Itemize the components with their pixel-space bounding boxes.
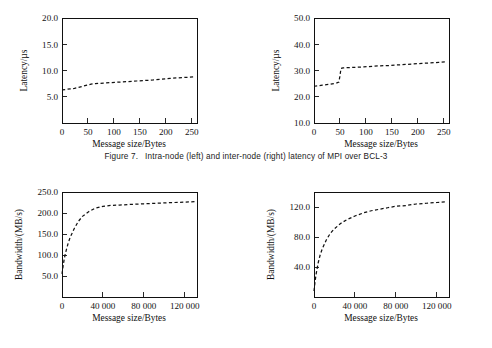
x-axis-ticks bbox=[314, 118, 444, 123]
y-tick-label: 50.0 bbox=[42, 271, 58, 281]
x-tick-label: 80 000 bbox=[383, 301, 408, 311]
plot-frame bbox=[314, 18, 449, 123]
inter-node-latency-chart: 50.0 40.0 30.0 20.0 10.0 0 50 100 150 20… bbox=[252, 4, 482, 152]
y-tick-label: 20.0 bbox=[294, 92, 310, 102]
x-tick-label: 50 bbox=[335, 127, 345, 137]
intra-node-bandwidth-chart: 250.0 200.0 150.0 100.0 50.0 0 40 000 80… bbox=[0, 178, 230, 338]
x-tick-label: 0 bbox=[60, 127, 65, 137]
x-tick-label: 80 000 bbox=[131, 301, 156, 311]
data-curve bbox=[62, 202, 195, 274]
x-tick-label: 0 bbox=[60, 301, 65, 311]
x-axis-ticks bbox=[62, 118, 192, 123]
chart-panel-inter-node-bandwidth: 120.0 80.0 40.0 0 40 000 80 000 120 000 … bbox=[252, 178, 482, 338]
data-curve bbox=[314, 62, 447, 86]
x-tick-label: 150 bbox=[385, 127, 399, 137]
x-tick-label: 120 000 bbox=[170, 301, 200, 311]
x-axis-ticks bbox=[314, 292, 437, 297]
y-axis-tick-labels: 20.0 15.0 10.0 5.0 bbox=[42, 13, 58, 102]
x-axis-tick-labels: 0 50 100 150 200 250 bbox=[60, 127, 199, 137]
y-tick-label: 80.0 bbox=[294, 232, 310, 242]
x-axis-title: Message size/Bytes bbox=[92, 139, 166, 149]
x-tick-label: 0 bbox=[312, 301, 317, 311]
x-axis-title: Message size/Bytes bbox=[344, 313, 418, 323]
figure-sheet: 20.0 15.0 10.0 5.0 0 50 100 150 200 250 … bbox=[0, 0, 492, 348]
y-tick-label: 5.0 bbox=[47, 92, 59, 102]
x-axis-title: Message size/Bytes bbox=[92, 313, 166, 323]
y-axis-ticks bbox=[62, 18, 67, 97]
y-axis-tick-labels: 250.0 200.0 150.0 100.0 50.0 bbox=[38, 187, 59, 281]
x-tick-label: 250 bbox=[185, 127, 199, 137]
y-tick-label: 10.0 bbox=[42, 66, 58, 76]
y-tick-label: 15.0 bbox=[42, 40, 58, 50]
y-tick-label: 250.0 bbox=[38, 187, 59, 197]
y-tick-label: 150.0 bbox=[38, 229, 59, 239]
chart-panel-intra-node-latency: 20.0 15.0 10.0 5.0 0 50 100 150 200 250 … bbox=[0, 4, 230, 152]
y-tick-label: 10.0 bbox=[294, 118, 310, 128]
y-tick-label: 120.0 bbox=[290, 202, 311, 212]
x-tick-label: 40 000 bbox=[342, 301, 367, 311]
x-tick-label: 50 bbox=[83, 127, 93, 137]
x-axis-tick-labels: 0 40 000 80 000 120 000 bbox=[60, 301, 200, 311]
data-curve bbox=[314, 202, 447, 291]
plot-frame bbox=[62, 18, 197, 123]
y-axis-title: Latency/µs bbox=[271, 49, 281, 91]
x-tick-label: 200 bbox=[159, 127, 173, 137]
chart-panel-intra-node-bandwidth: 250.0 200.0 150.0 100.0 50.0 0 40 000 80… bbox=[0, 178, 230, 338]
x-tick-label: 200 bbox=[411, 127, 425, 137]
x-tick-label: 100 bbox=[359, 127, 373, 137]
y-tick-label: 100.0 bbox=[38, 250, 59, 260]
y-tick-label: 20.0 bbox=[42, 13, 58, 23]
y-axis-tick-labels: 120.0 80.0 40.0 bbox=[290, 202, 311, 272]
y-axis-ticks bbox=[314, 18, 319, 123]
x-axis-tick-labels: 0 50 100 150 200 250 bbox=[312, 127, 451, 137]
figure-caption: Figure 7.Intra-node (left) and inter-nod… bbox=[0, 152, 492, 161]
figure-caption-text: Intra-node (left) and inter-node (right)… bbox=[145, 152, 387, 161]
x-tick-label: 250 bbox=[437, 127, 451, 137]
x-tick-label: 100 bbox=[107, 127, 121, 137]
x-axis-ticks bbox=[62, 292, 185, 297]
x-axis-tick-labels: 0 40 000 80 000 120 000 bbox=[312, 301, 452, 311]
y-axis-tick-labels: 50.0 40.0 30.0 20.0 10.0 bbox=[294, 13, 310, 128]
intra-node-latency-chart: 20.0 15.0 10.0 5.0 0 50 100 150 200 250 … bbox=[0, 4, 230, 152]
plot-frame bbox=[62, 192, 197, 297]
plot-frame bbox=[314, 192, 449, 297]
y-axis-title: Bandwidth/(MB/s) bbox=[14, 209, 25, 280]
y-tick-label: 50.0 bbox=[294, 13, 310, 23]
y-axis-ticks bbox=[62, 192, 67, 276]
x-axis-title: Message size/Bytes bbox=[344, 139, 418, 149]
figure-caption-label: Figure 7. bbox=[104, 152, 138, 161]
y-tick-label: 40.0 bbox=[294, 262, 310, 272]
inter-node-bandwidth-chart: 120.0 80.0 40.0 0 40 000 80 000 120 000 … bbox=[252, 178, 482, 338]
x-tick-label: 120 000 bbox=[422, 301, 452, 311]
y-axis-title: Bandwidth/(MB/s) bbox=[266, 209, 277, 280]
y-tick-label: 30.0 bbox=[294, 66, 310, 76]
y-tick-label: 40.0 bbox=[294, 40, 310, 50]
x-tick-label: 150 bbox=[133, 127, 147, 137]
chart-panel-inter-node-latency: 50.0 40.0 30.0 20.0 10.0 0 50 100 150 20… bbox=[252, 4, 482, 152]
x-tick-label: 0 bbox=[312, 127, 317, 137]
y-axis-ticks bbox=[314, 207, 319, 267]
x-tick-label: 40 000 bbox=[90, 301, 115, 311]
y-tick-label: 200.0 bbox=[38, 208, 59, 218]
y-axis-title: Latency/µs bbox=[19, 49, 29, 91]
data-curve bbox=[62, 77, 195, 90]
